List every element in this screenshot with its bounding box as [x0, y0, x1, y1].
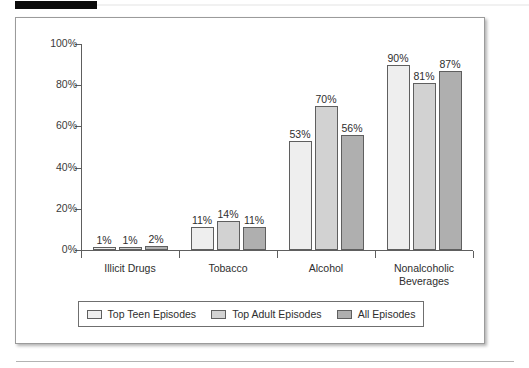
page-header-black-bar: [15, 1, 97, 9]
bar-value-label: 1%: [96, 234, 111, 246]
page-header-rule: [97, 4, 529, 6]
bar-group-bars: 11%14%11%: [191, 221, 266, 250]
bar-group-bars: 53%70%56%: [289, 106, 364, 250]
bar-group: 1%1%2%: [81, 43, 179, 250]
bar-value-label: 11%: [192, 214, 212, 226]
bar-group-bars: 1%1%2%: [93, 246, 168, 250]
x-axis-category-label: Alcohol: [277, 262, 375, 275]
y-axis-tick-label: 20%: [56, 202, 77, 214]
bar[interactable]: 56%: [341, 135, 364, 250]
legend-swatch-icon: [211, 310, 226, 319]
x-axis-tick-mark: [473, 251, 474, 258]
bar[interactable]: 2%: [145, 246, 168, 250]
bar[interactable]: 87%: [439, 71, 462, 250]
legend-item-label: Top Teen Episodes: [108, 308, 197, 320]
bar[interactable]: 53%: [289, 141, 312, 250]
bar-value-label: 56%: [341, 122, 362, 134]
bar-value-label: 70%: [315, 93, 336, 105]
bar-group: 90%81%87%: [375, 43, 473, 250]
y-axis-tick-label: 40%: [56, 161, 77, 173]
bar-value-label: 90%: [387, 52, 408, 64]
legend-item[interactable]: Top Teen Episodes: [87, 308, 197, 320]
bar[interactable]: 1%: [93, 247, 116, 250]
page-footer-rule: [16, 361, 514, 362]
bar[interactable]: 14%: [217, 221, 240, 250]
bar[interactable]: 81%: [413, 83, 436, 250]
bar-value-label: 87%: [439, 58, 460, 70]
legend-swatch-icon: [87, 310, 102, 319]
x-axis-tick-mark: [179, 251, 180, 258]
bar-group-bars: 90%81%87%: [387, 65, 462, 250]
bar[interactable]: 11%: [191, 227, 214, 250]
x-axis-category-label: Tobacco: [179, 262, 277, 275]
bar-value-label: 11%: [244, 214, 264, 226]
bar-value-label: 1%: [122, 234, 137, 246]
bar-group: 53%70%56%: [277, 43, 375, 250]
x-axis-tick-mark: [375, 251, 376, 258]
bar-group: 11%14%11%: [179, 43, 277, 250]
y-axis-tick-label: 0%: [62, 243, 77, 255]
x-axis-category-label: Illicit Drugs: [81, 262, 179, 275]
chart-figure-frame: 0%20%40%60%80%100% 1%1%2%11%14%11%53%70%…: [15, 17, 485, 344]
legend-item-label: Top Adult Episodes: [232, 308, 321, 320]
bar[interactable]: 90%: [387, 65, 410, 250]
y-axis-tick-label: 80%: [56, 78, 77, 90]
bar[interactable]: 70%: [315, 106, 338, 250]
x-axis-tick-mark: [277, 251, 278, 258]
bar[interactable]: 1%: [119, 247, 142, 250]
legend-item-label: All Episodes: [358, 308, 416, 320]
bar[interactable]: 11%: [243, 227, 266, 250]
bar-value-label: 81%: [413, 70, 434, 82]
x-axis-tick-mark: [81, 251, 82, 258]
chart-plot-area: 0%20%40%60%80%100% 1%1%2%11%14%11%53%70%…: [16, 18, 484, 343]
legend-item[interactable]: Top Adult Episodes: [211, 308, 321, 320]
legend-item[interactable]: All Episodes: [337, 308, 416, 320]
x-axis-category-label: Nonalcoholic Beverages: [375, 262, 473, 288]
legend-swatch-icon: [337, 310, 352, 319]
bar-value-label: 14%: [217, 208, 238, 220]
chart-legend: Top Teen Episodes Top Adult Episodes All…: [78, 301, 424, 327]
bar-value-label: 53%: [289, 128, 310, 140]
y-axis-tick-label: 60%: [56, 119, 77, 131]
y-axis-tick-label: 100%: [50, 37, 77, 49]
bar-value-label: 2%: [148, 233, 163, 245]
